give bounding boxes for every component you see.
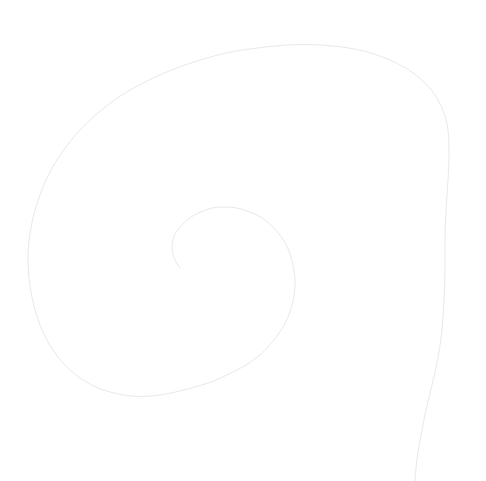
canvas-background xyxy=(0,0,486,481)
spiral-figure xyxy=(0,0,486,481)
drawing-canvas xyxy=(0,0,486,481)
